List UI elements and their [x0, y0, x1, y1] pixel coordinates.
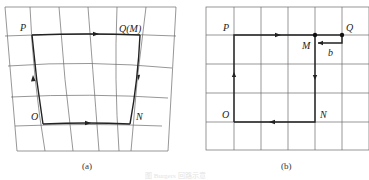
- label-o-a: O: [31, 111, 38, 122]
- label-p-a: P: [19, 22, 26, 33]
- label-p-b: P: [222, 22, 229, 33]
- label-o-b: O: [222, 109, 229, 120]
- burgers-circuit-figure: P Q(M) O N (a) P Q M b O N (b): [0, 0, 369, 180]
- panel-a-labels: P Q(M) O N (a): [19, 22, 144, 171]
- panel-a-grid: [5, 7, 176, 151]
- point-m-dot: [313, 33, 317, 37]
- arrow-right-icon: [93, 32, 99, 37]
- label-q-a: Q(M): [119, 23, 142, 35]
- point-q-dot: [340, 33, 344, 37]
- label-b-vector: b: [328, 47, 333, 58]
- panel-a-circuit: [31, 32, 140, 126]
- arrow-right-icon: [275, 33, 281, 38]
- label-m-b: M: [301, 40, 311, 51]
- panel-b-grid: [206, 7, 369, 150]
- label-q-b: Q: [346, 22, 354, 33]
- caption-b: (b): [281, 161, 292, 171]
- label-n-a: N: [135, 111, 144, 122]
- figure-caption: 图 Burgers 回路示意: [145, 171, 206, 180]
- caption-a: (a): [82, 161, 92, 171]
- label-n-b: N: [319, 109, 328, 120]
- arrow-up-icon: [232, 72, 236, 77]
- burgers-vector-arrow-icon: [318, 41, 323, 45]
- arrow-left-icon: [269, 120, 275, 125]
- arrow-down-icon: [138, 75, 141, 81]
- arrow-down-icon: [313, 75, 317, 80]
